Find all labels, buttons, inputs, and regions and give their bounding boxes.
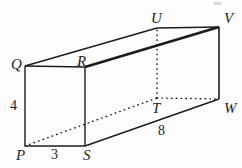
vertex-label-s: S <box>83 148 91 163</box>
scan-artifact-speck <box>214 2 221 5</box>
vertex-label-p: P <box>16 148 25 163</box>
geometry-figure: PQRSTUVW438 <box>0 0 242 168</box>
vertex-label-t: T <box>152 101 160 116</box>
vertex-label-u: U <box>151 11 162 26</box>
edge-PT <box>25 98 157 146</box>
edge-QR <box>25 66 85 67</box>
edge-TW <box>157 98 219 99</box>
dimension-label-depth: 8 <box>158 124 165 138</box>
edge-RV <box>85 27 219 67</box>
dimension-label-width: 3 <box>51 148 58 162</box>
edge-QU <box>25 28 157 66</box>
edge-UV <box>157 27 219 28</box>
vertex-label-w: W <box>224 101 237 116</box>
vertex-label-q: Q <box>11 57 22 72</box>
vertex-label-r: R <box>77 54 86 69</box>
dimension-label-height: 4 <box>10 99 17 113</box>
vertex-label-v: V <box>224 11 233 26</box>
rectangular-prism-drawing <box>0 0 242 168</box>
